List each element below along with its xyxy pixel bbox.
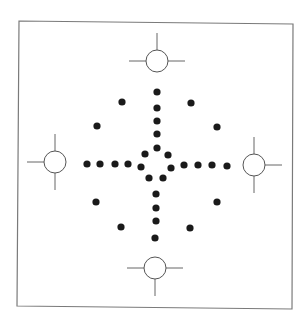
dot-diagonal-upper-left	[93, 122, 100, 129]
dot-horizontal-left	[83, 160, 90, 167]
dot-vertical-bottom	[152, 190, 159, 197]
dot-center-ring	[145, 174, 152, 181]
dot-diagonal-upper-left	[118, 98, 125, 105]
dot-horizontal-left	[124, 160, 131, 167]
dot-diagonal-upper-right	[213, 123, 220, 130]
dot-center-ring	[141, 150, 148, 157]
dot-vertical-top	[153, 130, 160, 137]
dot-center-ring	[167, 164, 174, 171]
dot-center-ring	[137, 163, 144, 170]
target-circle	[144, 257, 166, 279]
dot-horizontal-right	[223, 162, 230, 169]
dot-center-ring	[153, 144, 160, 151]
dot-center-ring	[164, 151, 171, 158]
dot-diagonal-upper-right	[187, 99, 194, 106]
dot-vertical-top	[153, 88, 160, 95]
dot-vertical-top	[153, 117, 160, 124]
dot-vertical-bottom	[151, 234, 158, 241]
dot-horizontal-left	[96, 160, 103, 167]
dot-center-ring	[159, 174, 166, 181]
dot-pattern-diagram	[0, 0, 304, 326]
dot-horizontal-left	[111, 160, 118, 167]
dot-horizontal-right	[180, 161, 187, 168]
dot-horizontal-right	[208, 161, 215, 168]
dot-diagonal-lower-left	[92, 198, 99, 205]
dot-vertical-bottom	[152, 217, 159, 224]
dot-vertical-bottom	[152, 204, 159, 211]
dot-horizontal-right	[194, 161, 201, 168]
dot-diagonal-lower-left	[117, 223, 124, 230]
dot-diagonal-lower-right	[186, 224, 193, 231]
dot-vertical-top	[153, 104, 160, 111]
target-circle	[243, 154, 265, 176]
dot-diagonal-lower-right	[213, 198, 220, 205]
target-circle	[44, 151, 66, 173]
target-circle	[146, 50, 168, 72]
